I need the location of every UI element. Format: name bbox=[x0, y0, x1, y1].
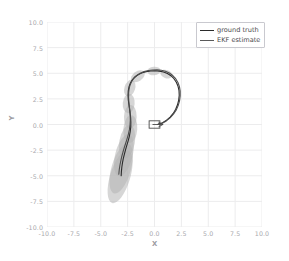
x-axis-label: X bbox=[47, 240, 262, 248]
trajectory-data bbox=[47, 22, 262, 227]
legend-entry: EKF estimate bbox=[200, 36, 260, 44]
legend-line-swatch bbox=[200, 40, 214, 41]
chart-legend: ground truthEKF estimate bbox=[196, 22, 265, 48]
legend-label: EKF estimate bbox=[217, 36, 260, 44]
legend-line-swatch bbox=[200, 30, 214, 31]
y-tick-label: 10.0 bbox=[9, 19, 43, 26]
y-tick-label: -5.0 bbox=[9, 172, 43, 179]
x-tick-label: 10.0 bbox=[242, 230, 282, 237]
legend-label: ground truth bbox=[217, 26, 259, 34]
y-tick-label: 7.5 bbox=[9, 44, 43, 51]
y-tick-label: -2.5 bbox=[9, 147, 43, 154]
y-tick-label: 5.0 bbox=[9, 70, 43, 77]
legend-entry: ground truth bbox=[200, 26, 260, 34]
plot-area bbox=[47, 22, 262, 227]
robot-pose-marker bbox=[149, 121, 163, 128]
y-axis-label: Y bbox=[8, 98, 16, 138]
ekf-trajectory-figure: 10.07.55.02.50.0-2.5-5.0-7.5-10.0 -10.0-… bbox=[0, 0, 289, 261]
y-tick-label: -7.5 bbox=[9, 198, 43, 205]
